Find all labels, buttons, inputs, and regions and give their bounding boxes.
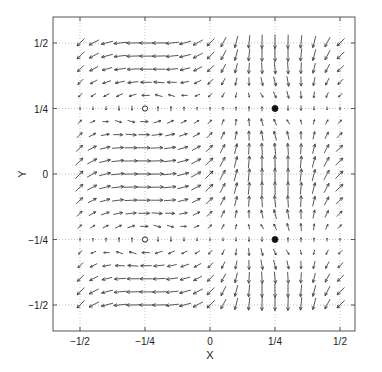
arrow-shaft bbox=[336, 198, 343, 205]
arrow-head bbox=[223, 107, 224, 108]
quiver-plot: −1/2−1/401/41/2−1/2−1/401/41/2 X Y bbox=[0, 0, 382, 372]
arrow-shaft bbox=[77, 288, 84, 295]
arrow-head bbox=[340, 238, 341, 239]
arrow-head bbox=[80, 109, 81, 110]
arrow-shaft bbox=[206, 184, 213, 191]
arrow-shaft bbox=[207, 275, 214, 282]
y-axis-label: Y bbox=[16, 170, 28, 178]
arrow-shaft bbox=[78, 79, 83, 84]
arrow-shaft bbox=[336, 145, 343, 152]
sink-marker bbox=[272, 106, 278, 112]
arrow-shaft bbox=[77, 38, 85, 46]
arrow-shaft bbox=[77, 211, 82, 216]
arrow-shaft bbox=[76, 145, 83, 152]
arrow-shaft bbox=[206, 198, 213, 205]
arrow-head bbox=[210, 107, 211, 108]
arrow-head bbox=[197, 107, 198, 108]
arrow-shaft bbox=[77, 275, 84, 282]
arrow-shaft bbox=[77, 65, 84, 72]
arrow-shaft bbox=[337, 275, 344, 282]
arrow-shaft bbox=[207, 133, 212, 138]
arrow-head bbox=[223, 240, 224, 241]
arrow-head bbox=[197, 240, 198, 241]
arrow-shaft bbox=[206, 145, 213, 152]
arrow-shaft bbox=[337, 300, 345, 308]
arrow-shaft bbox=[76, 184, 83, 191]
y-tick-label: 1/2 bbox=[34, 38, 48, 49]
arrow-shaft bbox=[77, 133, 82, 138]
arrow-shaft bbox=[77, 300, 85, 308]
arrow-shaft bbox=[76, 158, 83, 165]
arrow-shaft bbox=[337, 38, 345, 46]
x-tick-label: −1/4 bbox=[135, 336, 155, 347]
axis-ticks: −1/2−1/401/41/2−1/2−1/401/41/2 bbox=[28, 17, 355, 347]
arrow-head bbox=[327, 238, 328, 239]
arrow-shaft bbox=[207, 211, 212, 216]
sink-marker bbox=[272, 237, 278, 243]
arrow-shaft bbox=[337, 211, 342, 216]
arrow-shaft bbox=[335, 171, 343, 179]
arrow-head bbox=[340, 109, 341, 110]
arrow-head bbox=[93, 109, 94, 110]
y-tick-label: 1/4 bbox=[34, 104, 48, 115]
arrow-head bbox=[93, 238, 94, 239]
arrow-shaft bbox=[338, 79, 343, 84]
arrow-shaft bbox=[336, 158, 343, 165]
x-axis-label: X bbox=[206, 349, 214, 361]
grid-lines bbox=[53, 17, 355, 331]
arrow-shaft bbox=[207, 65, 214, 72]
arrow-shaft bbox=[337, 288, 344, 295]
arrow-shaft bbox=[336, 184, 343, 191]
arrow-shaft bbox=[77, 52, 84, 59]
arrow-shaft bbox=[75, 171, 83, 179]
arrow-shaft bbox=[208, 263, 213, 268]
x-tick-label: 1/2 bbox=[333, 336, 347, 347]
arrow-shaft bbox=[76, 198, 83, 205]
x-tick-label: −1/2 bbox=[70, 336, 90, 347]
arrow-shaft bbox=[206, 158, 213, 165]
arrow-shaft bbox=[207, 300, 215, 308]
source-marker bbox=[142, 106, 147, 111]
arrow-shaft bbox=[78, 263, 83, 268]
arrow-shaft bbox=[338, 263, 343, 268]
arrow-shaft bbox=[208, 79, 213, 84]
y-tick-label: −1/4 bbox=[28, 235, 48, 246]
arrow-shaft bbox=[207, 38, 215, 46]
arrow-head bbox=[210, 240, 211, 241]
arrow-head bbox=[327, 109, 328, 110]
source-marker bbox=[142, 237, 147, 242]
arrow-head bbox=[80, 238, 81, 239]
arrow-shaft bbox=[337, 133, 342, 138]
y-tick-label: −1/2 bbox=[28, 300, 48, 311]
arrow-shaft bbox=[205, 171, 213, 179]
arrow-shaft bbox=[337, 52, 344, 59]
arrow-shaft bbox=[207, 288, 214, 295]
arrow-shaft bbox=[207, 52, 214, 59]
x-tick-label: 0 bbox=[207, 336, 213, 347]
arrow-shaft bbox=[337, 65, 344, 72]
y-tick-label: 0 bbox=[42, 169, 48, 180]
x-tick-label: 1/4 bbox=[268, 336, 282, 347]
